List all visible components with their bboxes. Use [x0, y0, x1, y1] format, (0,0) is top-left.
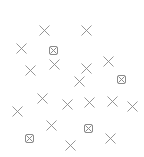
boxed-cross-marker — [24, 133, 35, 144]
x-icon — [103, 56, 114, 67]
x-icon — [127, 101, 138, 112]
x-icon — [105, 133, 116, 144]
cross-marker — [74, 76, 85, 87]
x-icon — [39, 25, 50, 36]
x-icon — [107, 96, 118, 107]
cross-marker — [65, 140, 76, 151]
x-icon — [16, 43, 27, 54]
cross-marker — [39, 25, 50, 36]
x-icon — [37, 93, 48, 104]
cross-marker — [12, 106, 23, 117]
x-icon — [25, 65, 36, 76]
x-icon — [84, 97, 95, 108]
x-icon — [46, 120, 57, 131]
boxed-x-icon — [83, 123, 94, 134]
cross-marker — [105, 133, 116, 144]
cross-marker — [81, 25, 92, 36]
x-icon — [65, 140, 76, 151]
cross-marker — [84, 97, 95, 108]
boxed-cross-marker — [83, 123, 94, 134]
x-icon — [74, 76, 85, 87]
cross-marker — [62, 99, 73, 110]
boxed-cross-marker — [116, 74, 127, 85]
marker-canvas — [0, 0, 144, 157]
cross-marker — [103, 56, 114, 67]
boxed-cross-marker — [48, 45, 59, 56]
cross-marker — [46, 120, 57, 131]
cross-marker — [25, 65, 36, 76]
x-icon — [81, 25, 92, 36]
boxed-x-icon — [116, 74, 127, 85]
x-icon — [49, 59, 60, 70]
cross-marker — [127, 101, 138, 112]
boxed-x-icon — [48, 45, 59, 56]
cross-marker — [49, 59, 60, 70]
cross-marker — [107, 96, 118, 107]
x-icon — [12, 106, 23, 117]
cross-marker — [16, 43, 27, 54]
boxed-x-icon — [24, 133, 35, 144]
cross-marker — [81, 63, 92, 74]
x-icon — [62, 99, 73, 110]
x-icon — [81, 63, 92, 74]
cross-marker — [37, 93, 48, 104]
